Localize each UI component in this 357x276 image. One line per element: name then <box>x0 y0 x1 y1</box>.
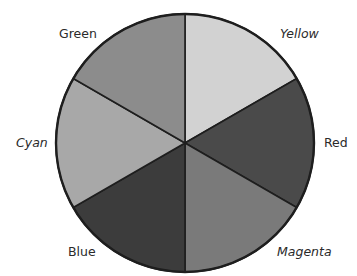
slice-label-cyan: Cyan <box>16 137 48 150</box>
pie-slices <box>56 14 314 272</box>
pie-chart <box>0 0 357 276</box>
slice-label-magenta: Magenta <box>277 246 332 259</box>
slice-label-red: Red <box>324 137 348 150</box>
slice-label-blue: Blue <box>68 246 96 259</box>
slice-label-green: Green <box>59 28 97 41</box>
slice-label-yellow: Yellow <box>280 28 319 41</box>
